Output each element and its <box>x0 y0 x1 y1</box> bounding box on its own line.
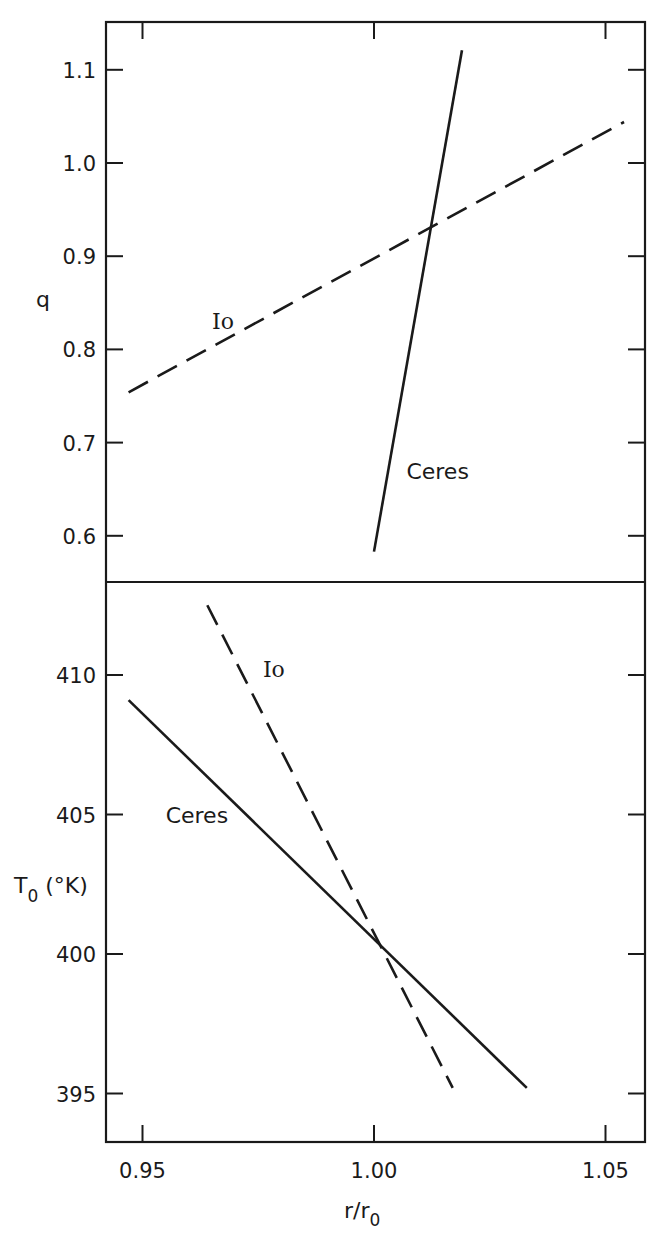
data-series <box>129 50 624 1088</box>
two-panel-chart: 0.60.70.80.91.01.13954004054100.951.001.… <box>0 0 664 1249</box>
svg-text:T0 (°K): T0 (°K) <box>13 873 88 906</box>
io-top-line <box>129 122 624 392</box>
y-tick-label: 410 <box>56 664 96 688</box>
ceres-bottom-label: Ceres <box>166 803 228 828</box>
x-axis-label: r/r0 <box>344 1198 380 1230</box>
svg-text:r/r0: r/r0 <box>344 1198 380 1230</box>
tick-labels: 0.60.70.80.91.01.13954004054100.951.001.… <box>56 59 629 1183</box>
ceres-bottom-line <box>129 700 527 1088</box>
x-tick-label: 0.95 <box>119 1159 166 1183</box>
y-tick-label: 1.1 <box>63 59 96 83</box>
y-tick-label: 0.9 <box>63 245 96 269</box>
y-tick-label: 0.8 <box>63 338 96 362</box>
series-labels: IoCeresIoCeres <box>166 309 469 827</box>
y-tick-label: 0.6 <box>63 525 96 549</box>
y-tick-label: 1.0 <box>63 152 96 176</box>
top-y-axis-label: q <box>36 287 50 312</box>
io-top-label: Io <box>212 309 234 334</box>
y-tick-label: 405 <box>56 804 96 828</box>
y-tick-label: 0.7 <box>63 432 96 456</box>
y-tick-label: 400 <box>56 943 96 967</box>
ceres-top-label: Ceres <box>406 459 468 484</box>
y-tick-label: 395 <box>56 1083 96 1107</box>
x-tick-label: 1.00 <box>351 1159 398 1183</box>
io-bottom-label: Io <box>263 657 285 682</box>
io-bottom-line <box>207 605 452 1088</box>
plot-frame <box>106 22 645 1142</box>
x-tick-label: 1.05 <box>582 1159 629 1183</box>
bottom-y-axis-label: T0 (°K) <box>13 873 88 906</box>
